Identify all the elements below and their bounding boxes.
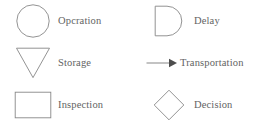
legend-item-label: Transportation <box>178 57 244 68</box>
legend-item-label: Inspection <box>56 99 103 110</box>
legend-item-label: Storage <box>56 57 91 68</box>
inverted-triangle-icon <box>10 42 56 83</box>
rectangle-icon <box>10 84 56 124</box>
arrow-right-icon <box>146 42 178 83</box>
legend-row: Inspection Decision <box>0 84 260 124</box>
legend-item-label: Decision <box>192 99 233 110</box>
legend-item-inspection[interactable]: Inspection <box>0 84 124 124</box>
legend-row: Opcration Delay <box>0 0 260 41</box>
legend-item-decision[interactable]: Decision <box>124 84 260 124</box>
legend-item-label: Delay <box>192 15 220 26</box>
legend-row: Storage Transportation <box>0 42 260 83</box>
legend-item-label: Opcration <box>56 15 101 26</box>
circle-icon <box>10 0 56 41</box>
flowchart-symbol-legend: Opcration Delay Storage <box>0 0 260 124</box>
diamond-icon <box>146 84 192 124</box>
d-shape-icon <box>146 0 192 41</box>
legend-item-operation[interactable]: Opcration <box>0 0 124 41</box>
legend-item-storage[interactable]: Storage <box>0 42 124 83</box>
legend-item-delay[interactable]: Delay <box>124 0 260 41</box>
legend-item-transportation[interactable]: Transportation <box>124 42 260 83</box>
